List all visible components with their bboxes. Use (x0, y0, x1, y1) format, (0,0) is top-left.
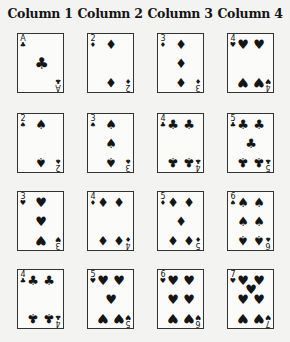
playing-card: 5♣5♣♣♣♣♣♣ (227, 113, 274, 173)
club-icon: ♣ (237, 156, 250, 169)
club-icon: ♣ (19, 42, 27, 49)
diamond-icon: ♦ (175, 76, 188, 89)
heart-icon: ♥ (237, 38, 250, 51)
heart-icon: ♥ (183, 293, 196, 306)
diamond-icon: ♦ (113, 196, 126, 209)
column-header-1: Column 1 (5, 6, 75, 21)
club-icon: ♣ (27, 274, 40, 287)
heart-icon: ♥ (253, 293, 266, 306)
diamond-icon: ♦ (105, 38, 118, 51)
playing-card: 6♠6♠♠♠♠♠♠♠ (227, 191, 274, 251)
diamond-icon: ♦ (105, 76, 118, 89)
playing-card: 2♠2♠♠♠ (17, 113, 64, 173)
playing-card: 4♦4♦♦♦♦♦ (87, 191, 134, 251)
playing-card: 2♦2♦♦♦ (87, 33, 134, 93)
playing-card: 3♠3♠♠♠♠ (87, 113, 134, 173)
playing-card: 4♥4♥♥♥♥♥ (227, 33, 274, 93)
spade-icon: ♠ (105, 118, 118, 131)
card-index-bottom-right: 2♠ (54, 157, 62, 171)
heart-icon: ♥ (183, 312, 196, 325)
heart-icon: ♥ (97, 312, 110, 325)
column-header-3: Column 3 (145, 6, 215, 21)
spade-icon: ♠ (35, 118, 48, 131)
diamond-icon: ♦ (159, 42, 167, 49)
heart-icon: ♥ (237, 312, 250, 325)
playing-card: 6♥6♥♥♥♥♥♥♥ (157, 269, 204, 329)
diamond-icon: ♦ (167, 234, 180, 247)
diamond-icon: ♦ (175, 215, 188, 228)
playing-card: 4♣4♣♣♣♣♣ (157, 113, 204, 173)
spade-icon: ♠ (237, 215, 250, 228)
club-icon: ♣ (35, 57, 48, 70)
club-icon: ♣ (43, 312, 56, 325)
diamond-icon: ♦ (167, 196, 180, 209)
spade-icon: ♠ (35, 156, 48, 169)
diamond-icon: ♦ (183, 196, 196, 209)
spade-icon: ♠ (105, 137, 118, 150)
heart-icon: ♥ (35, 215, 48, 228)
club-icon: ♣ (54, 77, 62, 84)
card-index-top-left: 3♦ (159, 35, 167, 49)
club-icon: ♣ (245, 137, 258, 150)
playing-card: 5♦5♦♦♦♦♦♦ (157, 191, 204, 251)
spade-icon: ♠ (237, 234, 250, 247)
club-icon: ♣ (183, 156, 196, 169)
club-icon: ♣ (253, 156, 266, 169)
heart-icon: ♥ (253, 76, 266, 89)
heart-icon: ♥ (167, 293, 180, 306)
heart-icon: ♥ (54, 235, 62, 242)
heart-icon: ♥ (167, 274, 180, 287)
spade-icon: ♠ (105, 156, 118, 169)
card-index-bottom-right: 3♥ (54, 235, 62, 249)
spade-icon: ♠ (237, 196, 250, 209)
column-header-2: Column 2 (75, 6, 145, 21)
heart-icon: ♥ (35, 234, 48, 247)
heart-icon: ♥ (113, 312, 126, 325)
heart-icon: ♥ (35, 196, 48, 209)
spade-icon: ♠ (253, 215, 266, 228)
diamond-icon: ♦ (183, 234, 196, 247)
column-header-4: Column 4 (215, 6, 285, 21)
heart-icon: ♥ (105, 293, 118, 306)
diamond-icon: ♦ (113, 234, 126, 247)
club-icon: ♣ (237, 118, 250, 131)
card-index-bottom-right: A♣ (54, 77, 62, 91)
club-icon: ♣ (43, 274, 56, 287)
heart-icon: ♥ (253, 38, 266, 51)
playing-card: 4♣4♣♣♣♣♣ (17, 269, 64, 329)
spade-icon: ♠ (54, 157, 62, 164)
club-icon: ♣ (27, 312, 40, 325)
diamond-icon: ♦ (194, 77, 202, 84)
card-index-bottom-right: 3♦ (194, 77, 202, 91)
club-icon: ♣ (253, 118, 266, 131)
heart-icon: ♥ (113, 274, 126, 287)
diamond-icon: ♦ (175, 57, 188, 70)
heart-icon: ♥ (19, 200, 27, 207)
spade-icon: ♠ (89, 122, 97, 129)
heart-icon: ♥ (237, 293, 250, 306)
spade-icon: ♠ (124, 157, 132, 164)
diamond-icon: ♦ (89, 42, 97, 49)
card-index-top-left: 2♦ (89, 35, 97, 49)
playing-card: A♣A♣♣ (17, 33, 64, 93)
heart-icon: ♥ (167, 312, 180, 325)
card-index-top-left: 3♠ (89, 115, 97, 129)
heart-icon: ♥ (97, 274, 110, 287)
diamond-icon: ♦ (175, 38, 188, 51)
club-icon: ♣ (167, 156, 180, 169)
playing-card: 5♥5♥♥♥♥♥♥ (87, 269, 134, 329)
card-index-top-left: 2♠ (19, 115, 27, 129)
spade-icon: ♠ (253, 234, 266, 247)
heart-icon: ♥ (237, 76, 250, 89)
card-index-bottom-right: 3♠ (124, 157, 132, 171)
playing-card: 3♥3♥♥♥♥ (17, 191, 64, 251)
card-index-top-left: 3♥ (19, 193, 27, 207)
diamond-icon: ♦ (97, 196, 110, 209)
heart-icon: ♥ (253, 312, 266, 325)
club-icon: ♣ (183, 118, 196, 131)
heart-icon: ♥ (183, 274, 196, 287)
card-index-top-left: A♣ (19, 35, 27, 49)
diamond-icon: ♦ (97, 234, 110, 247)
card-index-bottom-right: 2♦ (124, 77, 132, 91)
playing-card: 3♦3♦♦♦♦ (157, 33, 204, 93)
